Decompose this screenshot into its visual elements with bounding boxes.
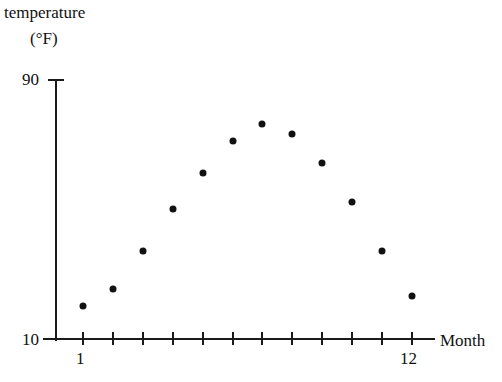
x-axis-tick-9 [321,332,323,345]
x-axis-tick-1 [82,332,84,345]
x-axis-tick-2 [112,332,114,345]
data-point-month-2 [109,286,116,293]
data-point-month-6 [229,137,236,144]
x-axis-tick-3 [142,332,144,345]
data-point-month-4 [169,205,176,212]
x-axis-tick-8 [291,332,293,345]
data-point-month-7 [259,121,266,128]
data-point-month-3 [139,247,146,254]
data-point-month-11 [379,247,386,254]
data-point-month-10 [349,199,356,206]
x-axis-tick-10 [351,332,353,345]
x-axis-tick-6 [232,332,234,345]
scatter-chart: temperature (°F) Month 90 10 1 12 [0,0,502,382]
data-point-month-8 [289,131,296,138]
data-point-month-5 [199,169,206,176]
x-axis-tick-12 [411,332,413,345]
x-axis-tick-5 [202,332,204,345]
x-axis-tick-11 [381,332,383,345]
x-axis-tick-4 [172,332,174,345]
data-point-month-9 [319,160,326,167]
data-point-month-12 [408,292,415,299]
plot-area [0,0,502,382]
x-axis-tick-7 [261,332,263,345]
data-point-month-1 [80,302,87,309]
